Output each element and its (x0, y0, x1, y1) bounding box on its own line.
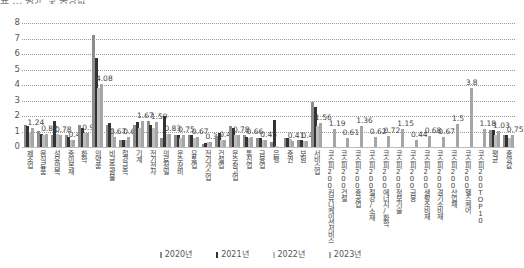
x-tick-label: 철강금속 (120, 150, 128, 174)
x-tick-label: 화학 (79, 150, 87, 162)
bar-2023년 (511, 135, 514, 147)
y-tick-label: 2 (10, 110, 20, 120)
gridline (22, 54, 515, 55)
bar-2023년 (319, 123, 322, 147)
y-tick-label: 0 (10, 141, 20, 151)
data-label: 0.61 (342, 128, 359, 137)
bar-2023년 (223, 140, 226, 147)
bar-2023년 (237, 135, 240, 147)
x-tick-label: 의약품 (93, 150, 101, 168)
legend-swatch-icon (160, 252, 162, 258)
data-label: 3.8 (466, 78, 478, 87)
x-tick-label: 비금속광물 (107, 150, 115, 180)
x-tick-label: 통신업 (244, 150, 252, 168)
x-tick-label: 유통업 (189, 150, 197, 168)
legend-label: 2021년 (221, 250, 248, 259)
bar-2023년 (401, 129, 404, 147)
bar-2023년 (374, 137, 377, 147)
x-tick-label: 코스피200헬스케어 (463, 150, 471, 213)
data-label: 1.5 (452, 114, 464, 123)
legend-label: 2020년 (165, 250, 192, 259)
bar-2023년 (45, 134, 48, 147)
bar-2023년 (264, 140, 267, 147)
legend-swatch-icon (273, 252, 275, 258)
bar-2023년 (182, 135, 185, 147)
x-tick-label: 코스피200생활소비재 (422, 150, 430, 219)
legend-swatch-icon (216, 252, 218, 258)
x-tick-label: 코스피200에너지/화학 (381, 150, 389, 226)
legend: 2020년2021년2022년2023년 (0, 248, 521, 259)
gridline (22, 39, 515, 40)
bar-2023년 (141, 121, 144, 147)
x-axis-line (22, 147, 515, 148)
x-tick-label: 코스피200커뮤니케이션서비스 (326, 150, 334, 243)
x-tick-label: 증권 (285, 150, 293, 162)
bar-2023년 (196, 137, 199, 147)
x-tick-label: 코스피200건설 (339, 150, 347, 201)
x-tick-label: 코스피200산업재 (449, 150, 457, 207)
data-label: 1.15 (397, 119, 414, 128)
legend-swatch-icon (329, 252, 331, 258)
bar-2023년 (155, 122, 158, 147)
x-tick-label: 기계 (134, 150, 142, 162)
x-tick-label: 코스피200철강/소재 (367, 150, 375, 220)
x-tick-label: 운수장비 (175, 150, 183, 174)
x-tick-label: 코스피200TOP10 (476, 150, 484, 224)
x-tick-label: 코스피200정보기술 (394, 150, 402, 213)
bar-2023년 (428, 136, 431, 147)
bar-2023년 (346, 138, 349, 147)
x-tick-label: 전기가스업 (203, 150, 211, 180)
x-tick-label: 제조업 (25, 150, 33, 168)
x-tick-label: 평균 (490, 150, 498, 162)
bar-2023년 (113, 137, 116, 147)
data-label: 0.75 (507, 125, 524, 134)
x-tick-label: 보험 (298, 150, 306, 162)
bar-2023년 (456, 124, 459, 147)
x-tick-label: 코스피200중공업 (353, 150, 361, 207)
x-tick-label: 종이목재 (66, 150, 74, 174)
bar-2022년 (275, 146, 278, 147)
data-label: 1.36 (356, 116, 373, 125)
x-tick-label: 음식료품 (38, 150, 46, 174)
legend-item: 2022년 (273, 248, 305, 259)
bar-2023년 (209, 142, 212, 147)
bar-2023년 (360, 126, 363, 147)
x-tick-label: 코스피200금융 (408, 150, 416, 201)
bar-2023년 (415, 140, 418, 147)
legend-item: 2021년 (216, 248, 248, 259)
bar-2023년 (250, 137, 253, 147)
y-tick-label: 6 (10, 48, 20, 58)
x-tick-label: 전기전자 (148, 150, 156, 174)
bar-2023년 (168, 134, 171, 147)
y-tick-label: 7 (10, 33, 20, 43)
bar-2023년 (86, 133, 89, 147)
data-label: 0.67 (438, 127, 455, 136)
data-label: 1.19 (329, 119, 346, 128)
data-label: 4.08 (96, 74, 113, 83)
bar-2023년 (333, 129, 336, 147)
x-tick-label: 금융업 (257, 150, 265, 168)
bar-2021년 (273, 120, 276, 147)
legend-item: 2020년 (160, 248, 192, 259)
x-tick-label: 코스피200경기소비재 (435, 150, 443, 219)
x-tick-label: 중앙값 (504, 150, 512, 168)
x-tick-label: 의료정밀 (161, 150, 169, 174)
x-tick-label: 운수창고업 (230, 150, 238, 180)
bar-2023년 (127, 137, 130, 147)
bar-2023년 (305, 141, 308, 147)
y-tick-label: 8 (10, 17, 20, 27)
x-tick-label: 은행 (271, 150, 279, 162)
y-tick-label: 4 (10, 79, 20, 89)
y-tick-label: 3 (10, 95, 20, 105)
bar-2023년 (442, 137, 445, 147)
bar-2023년 (31, 128, 34, 147)
y-tick-label: 1 (10, 126, 20, 136)
bar-2023년 (497, 131, 500, 147)
x-tick-label: 건설업 (216, 150, 224, 168)
legend-label: 2023년 (334, 250, 361, 259)
bar-2023년 (470, 88, 473, 147)
legend-item: 2023년 (329, 248, 361, 259)
bar-2023년 (483, 129, 486, 147)
x-tick-label: 서비스업 (312, 150, 320, 174)
